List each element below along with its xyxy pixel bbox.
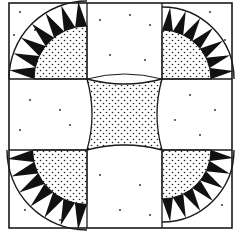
background-dot: [13, 34, 15, 36]
background-dot: [174, 119, 176, 121]
quilt-drawing: [7, 1, 234, 230]
background-dot: [149, 24, 151, 26]
background-dot: [59, 219, 61, 221]
background-dot: [29, 99, 31, 101]
background-dot: [109, 54, 111, 56]
sawtooth-triangle: [162, 198, 173, 222]
sawtooth-triangle: [162, 7, 173, 31]
sawtooth-triangle: [173, 194, 186, 218]
background-dot: [189, 94, 191, 96]
background-dot: [209, 11, 211, 13]
background-dot: [149, 214, 151, 216]
background-dot: [119, 209, 121, 211]
sawtooth-triangle: [75, 203, 87, 229]
background-dot: [69, 124, 71, 126]
sawtooth-triangle: [8, 150, 34, 162]
background-dot: [59, 109, 61, 111]
background-dot: [224, 39, 226, 41]
background-dot: [129, 14, 131, 16]
sawtooth-triangle: [75, 1, 87, 27]
background-dot: [221, 204, 223, 206]
sawtooth-triangle: [61, 199, 75, 225]
background-dot: [99, 19, 101, 21]
sawtooth-triangle: [210, 68, 234, 79]
background-dot: [214, 109, 216, 111]
background-dot: [144, 59, 146, 61]
background-dot: [19, 11, 21, 13]
background-dot: [19, 129, 21, 131]
background-dot: [24, 209, 26, 211]
background-dot: [199, 134, 201, 136]
sawtooth-triangle: [206, 55, 230, 68]
sawtooth-triangle: [61, 5, 75, 31]
center-arc-top: [87, 74, 162, 79]
background-dot: [139, 184, 141, 186]
quilt-block-figure: [0, 0, 241, 235]
sawtooth-triangle: [173, 11, 186, 35]
sawtooth-triangle: [13, 53, 39, 67]
sawtooth-triangle: [9, 67, 35, 79]
background-dot: [99, 174, 101, 176]
center-concave-square: [87, 79, 162, 150]
sawtooth-triangle: [206, 161, 230, 174]
sawtooth-triangle: [210, 150, 234, 161]
sawtooth-triangle: [11, 162, 37, 176]
